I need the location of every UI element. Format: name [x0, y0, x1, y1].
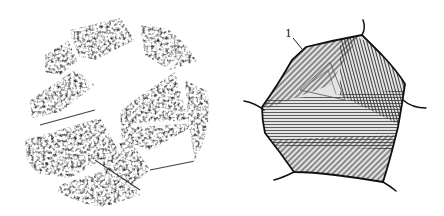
figure: 1: [0, 0, 444, 216]
micrograph-image: [0, 0, 222, 216]
label-1: 1: [285, 27, 292, 40]
micrograph-panel: [0, 0, 222, 216]
grain-drawing: 1: [222, 0, 444, 216]
grain-drawing-panel: 1: [222, 0, 444, 216]
label-leader-line: [293, 38, 302, 49]
